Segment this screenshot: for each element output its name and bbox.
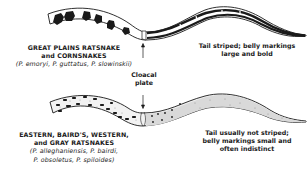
- bottom-snake-illustration: [50, 94, 306, 126]
- bottom-description: Tail usually not striped; belly markings…: [186, 129, 307, 154]
- top-common-name-line1: GREAT PLAINS RATSNAKE: [4, 44, 144, 52]
- cloacal-plate-label-line1: Cloacal: [124, 71, 164, 79]
- bottom-description-line2: belly markings small and: [186, 137, 307, 145]
- bottom-common-name-line2: and GRAY RATSNAKES: [4, 139, 144, 147]
- top-scientific-names: (P. emoryi, P. guttatus, P. slowinskii): [4, 60, 144, 68]
- bottom-description-line1: Tail usually not striped;: [186, 129, 307, 137]
- cloacal-plate-label: Cloacal plate: [124, 71, 164, 87]
- cloacal-plate-label-line2: plate: [124, 79, 164, 87]
- bottom-scientific-line2: P. obsoletus, P. spiloides): [4, 156, 144, 164]
- top-description-line1: Tail striped; belly markings: [186, 42, 307, 50]
- bottom-scientific-line1: (P. alleghaniensis, P. bairdi,: [4, 147, 144, 155]
- bottom-common-name-line1: EASTERN, BAIRD'S, WESTERN,: [4, 131, 144, 139]
- bottom-species-label: EASTERN, BAIRD'S, WESTERN, and GRAY RATS…: [4, 131, 144, 164]
- top-snake-illustration: [48, 7, 306, 40]
- top-description-line2: large and bold: [186, 50, 307, 58]
- top-species-label: GREAT PLAINS RATSNAKE and CORNSNAKES (P.…: [4, 44, 144, 69]
- top-description: Tail striped; belly markings large and b…: [186, 42, 307, 58]
- top-common-name-line2: and CORNSNAKES: [4, 52, 144, 60]
- bottom-description-line3: often indistinct: [186, 145, 307, 153]
